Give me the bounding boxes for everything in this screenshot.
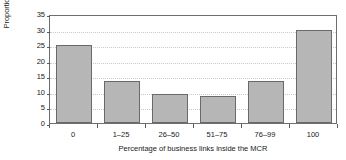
bar (296, 30, 332, 123)
y-axis-tick-label: 35 (20, 10, 45, 20)
x-axis-tick-mark (49, 124, 50, 128)
bar-slot (146, 16, 194, 123)
bar-chart-figure: Proportion of sample (%) 05101520253035 … (0, 0, 346, 160)
y-axis-title: Proportion of sample (%) (0, 0, 14, 43)
x-axis-title: Percentage of business links inside the … (49, 143, 337, 154)
y-axis-tick-label: 0 (20, 119, 45, 129)
y-axis-tick-label: 30 (20, 26, 45, 36)
x-axis-tick-mark (193, 124, 194, 128)
bar (248, 81, 284, 123)
y-axis-tick-label: 20 (20, 57, 45, 67)
bar-slot (98, 16, 146, 123)
y-axis-tick-label: 10 (20, 88, 45, 98)
x-axis-tick-label: 51–75 (193, 129, 241, 140)
x-axis-tick-mark (97, 124, 98, 128)
x-axis-tick-mark (145, 124, 146, 128)
bar (56, 45, 92, 123)
bar-slot (50, 16, 98, 123)
x-axis-tick-label: 100 (289, 129, 337, 140)
x-axis-tick-label: 76–99 (241, 129, 289, 140)
x-axis-tick-label: 1–25 (97, 129, 145, 140)
y-axis-tick-label: 5 (20, 103, 45, 113)
x-axis-tick-label: 26–50 (145, 129, 193, 140)
plot-area (49, 15, 337, 124)
bar-slot (242, 16, 290, 123)
y-axis-tick-label: 15 (20, 72, 45, 82)
x-axis-tick-mark (289, 124, 290, 128)
bar-slot (290, 16, 338, 123)
bar-series (50, 16, 336, 123)
bar (152, 94, 188, 123)
y-axis-tick-label: 25 (20, 41, 45, 51)
y-axis-tick-labels: 05101520253035 (20, 0, 45, 160)
bar-slot (194, 16, 242, 123)
x-axis-tick-label: 0 (49, 129, 97, 140)
bar (104, 81, 140, 123)
x-axis-tick-mark (241, 124, 242, 128)
x-axis-tick-mark (337, 124, 338, 128)
bar (200, 96, 236, 123)
